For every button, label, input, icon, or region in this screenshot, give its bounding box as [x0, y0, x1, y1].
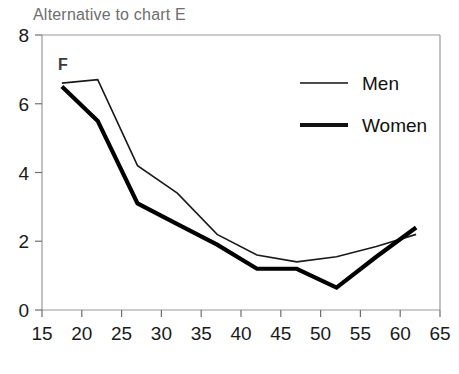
x-tick-label: 60 [390, 323, 411, 344]
chart-figure: Alternative to chart E 15202530354045505… [0, 0, 459, 374]
x-tick-label: 25 [111, 323, 132, 344]
line-chart: 1520253035404550556065 02468 MenWomen F [0, 0, 459, 374]
series-line-men [62, 80, 416, 262]
x-tick-label: 55 [350, 323, 371, 344]
legend-label-women: Women [362, 115, 427, 136]
y-tick-label: 0 [18, 300, 29, 321]
legend-label-men: Men [362, 73, 399, 94]
y-tick-label: 4 [18, 163, 29, 184]
y-axis-ticks [35, 35, 42, 310]
x-tick-label: 20 [71, 323, 92, 344]
chart-legend: MenWomen [300, 73, 427, 136]
y-tick-label: 2 [18, 231, 29, 252]
x-axis-tick-labels: 1520253035404550556065 [31, 323, 450, 344]
x-tick-label: 65 [429, 323, 450, 344]
panel-label: F [58, 56, 68, 73]
x-tick-label: 40 [230, 323, 251, 344]
x-tick-label: 35 [191, 323, 212, 344]
x-tick-label: 45 [270, 323, 291, 344]
y-tick-label: 8 [18, 25, 29, 46]
x-axis-ticks [42, 310, 440, 317]
y-tick-label: 6 [18, 94, 29, 115]
x-tick-label: 15 [31, 323, 52, 344]
x-tick-label: 30 [151, 323, 172, 344]
x-tick-label: 50 [310, 323, 331, 344]
data-series-layer [62, 80, 416, 288]
y-axis-tick-labels: 02468 [18, 25, 29, 321]
